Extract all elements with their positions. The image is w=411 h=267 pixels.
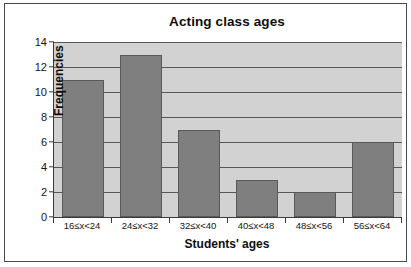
x-axis-ticks: 16≤x<2424≤x<3232≤x<4040≤x<4848≤x<5656≤x<… [53, 220, 401, 231]
y-axis-tick-mark [49, 166, 54, 167]
y-axis-tick-label: 14 [7, 36, 47, 48]
y-axis-tick-mark [49, 41, 54, 42]
y-axis-tick-mark [49, 191, 54, 192]
figure-frame: Acting class ages 02468101214 Frequencie… [4, 3, 407, 262]
y-axis-ticks: 02468101214 [54, 42, 402, 217]
y-axis-title: Frequencies [52, 45, 66, 116]
chart-figure: Acting class ages 02468101214 Frequencie… [0, 0, 411, 267]
y-axis-tick-mark [49, 141, 54, 142]
x-axis-tick-label: 24≤x<32 [111, 220, 169, 231]
x-axis-tick-label: 48≤x<56 [285, 220, 343, 231]
x-axis-tick-label: 16≤x<24 [53, 220, 111, 231]
x-axis-tick-label: 40≤x<48 [227, 220, 285, 231]
plot-area: 02468101214 Frequencies [53, 42, 402, 218]
x-axis-tick-mark [401, 218, 402, 223]
y-axis-tick-mark [49, 116, 54, 117]
y-axis-tick-label: 10 [7, 86, 47, 98]
x-axis-tick-label: 56≤x<64 [343, 220, 401, 231]
y-axis-tick-label: 8 [7, 111, 47, 123]
y-axis-tick-label: 0 [7, 211, 47, 223]
x-axis-title: Students' ages [53, 237, 401, 251]
x-axis-tick-label: 32≤x<40 [169, 220, 227, 231]
chart-title: Acting class ages [53, 14, 401, 29]
y-axis-tick-label: 2 [7, 186, 47, 198]
y-axis-tick-label: 6 [7, 136, 47, 148]
y-axis-tick-label: 12 [7, 61, 47, 73]
y-axis-tick-label: 4 [7, 161, 47, 173]
